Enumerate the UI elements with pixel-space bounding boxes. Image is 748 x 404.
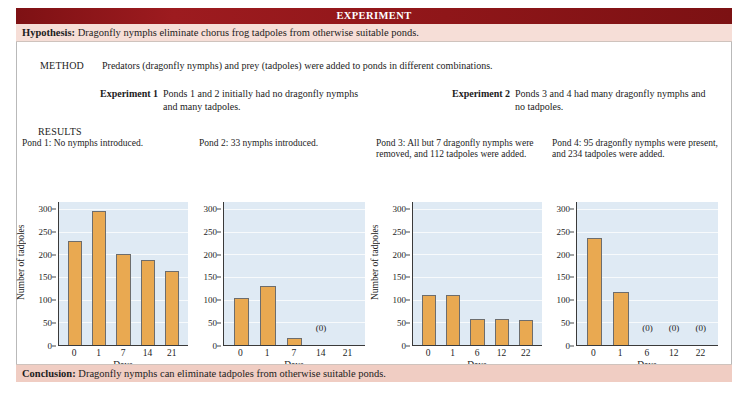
y-tick-label: 0 <box>213 342 218 350</box>
bar-cell <box>514 202 538 345</box>
x-tick-label: 22 <box>687 348 714 360</box>
y-tick-label: 250 <box>39 228 53 236</box>
bar-series: (0)(0)(0) <box>577 202 718 345</box>
y-tick-label: 0 <box>566 342 571 350</box>
hypothesis-text: Dragonfly nymphs eliminate chorus frog t… <box>75 27 419 38</box>
bar-cell <box>441 202 465 345</box>
bar-cell: (0) <box>634 202 661 345</box>
y-axis-title: Number of tadpoles <box>370 208 384 316</box>
bar-cell <box>87 202 111 345</box>
y-tick-label: 200 <box>393 251 407 259</box>
chart-area: 050100150200250300(0)(0)(0)0161222Days <box>548 172 724 358</box>
bar <box>234 298 249 345</box>
x-tick-label: 22 <box>514 348 538 360</box>
y-tick-label: 300 <box>39 205 53 213</box>
bar <box>613 292 628 345</box>
chart-title: Pond 4: 95 dragonfly nymphs were present… <box>548 138 724 172</box>
x-tick-label: 1 <box>254 348 281 360</box>
y-tick-label: 200 <box>557 251 571 259</box>
y-tick-label: 250 <box>557 228 571 236</box>
experiment-1-block: Experiment 1Ponds 1 and 2 initially had … <box>100 88 400 113</box>
bar <box>446 295 460 345</box>
x-tick-label: 0 <box>416 348 440 360</box>
results-label: RESULTS <box>38 126 82 137</box>
chart-panel-pond-3: Pond 3: All but 7 dragonfly nymphs were … <box>372 138 548 360</box>
y-tick-label: 150 <box>393 273 407 281</box>
y-tick-label: 300 <box>204 205 218 213</box>
chart-panel-pond-2: Pond 2: 33 nymphs introduced.05010015020… <box>195 138 371 360</box>
bar-cell <box>111 202 135 345</box>
zero-value-label: (0) <box>634 323 661 333</box>
y-tick-label: 100 <box>557 296 571 304</box>
bar-series <box>59 202 188 345</box>
y-tick-label: 50 <box>397 319 406 327</box>
bar-cell: (0) <box>661 202 688 345</box>
y-tick-label: 100 <box>204 296 218 304</box>
bar-cell <box>608 202 635 345</box>
hypothesis-band: Hypothesis: Dragonfly nymphs eliminate c… <box>16 24 732 42</box>
y-tick-label: 50 <box>43 319 52 327</box>
y-tick-label: 300 <box>393 205 407 213</box>
zero-value-label: (0) <box>687 323 714 333</box>
experiment-1-text: Ponds 1 and 2 initially had no dragonfly… <box>163 88 363 113</box>
x-tick-label: 12 <box>660 348 687 360</box>
chart-title: Pond 2: 33 nymphs introduced. <box>195 138 371 172</box>
bar <box>470 319 484 345</box>
bar <box>587 238 602 345</box>
x-tick-label: 1 <box>440 348 464 360</box>
experiment-banner: EXPERIMENT <box>16 8 732 24</box>
bar-cell <box>334 202 361 345</box>
bar-cell <box>136 202 160 345</box>
bar-series <box>413 202 542 345</box>
x-tick-label: 21 <box>334 348 361 360</box>
x-axis-ticks: 0161222 <box>412 348 542 360</box>
bar-cell <box>490 202 514 345</box>
y-tick-label: 250 <box>393 228 407 236</box>
bar <box>165 271 179 345</box>
x-tick-label: 7 <box>111 348 135 360</box>
bar <box>260 286 275 345</box>
x-tick-label: 7 <box>281 348 308 360</box>
method-row: METHODPredators (dragonfly nymphs) and p… <box>40 60 730 71</box>
x-tick-label: 21 <box>160 348 184 360</box>
bar <box>422 295 436 345</box>
y-axis-ticks: 050100150200250300 <box>548 202 574 346</box>
conclusion-text: Dragonfly nymphs can eliminate tadpoles … <box>76 368 386 379</box>
x-axis-ticks: 0171421 <box>223 348 365 360</box>
x-tick-label: 6 <box>465 348 489 360</box>
experiment-figure: EXPERIMENT Hypothesis: Dragonfly nymphs … <box>0 0 748 404</box>
experiment-2-block: Experiment 2Ponds 3 and 4 had many drago… <box>452 88 742 113</box>
x-tick-label: 14 <box>307 348 334 360</box>
bar <box>495 319 509 345</box>
experiment-1-label: Experiment 1 <box>100 88 158 99</box>
bar <box>287 338 302 345</box>
y-tick-label: 200 <box>39 251 53 259</box>
bar-cell <box>255 202 282 345</box>
y-tick-label: 0 <box>48 342 53 350</box>
chart-title: Pond 1: No nymphs introduced. <box>18 138 194 172</box>
y-tick-label: 250 <box>204 228 218 236</box>
chart-panel-pond-1: Pond 1: No nymphs introduced.Number of t… <box>18 138 194 360</box>
chart-area: 050100150200250300(0)0171421Days <box>195 172 371 358</box>
x-tick-label: 6 <box>634 348 661 360</box>
y-tick-label: 50 <box>561 319 570 327</box>
y-tick-label: 150 <box>39 273 53 281</box>
bar-cell <box>228 202 255 345</box>
bar-cell <box>417 202 441 345</box>
bar <box>68 241 82 345</box>
y-tick-label: 150 <box>204 273 218 281</box>
plot-area <box>412 202 542 346</box>
y-tick-label: 150 <box>557 273 571 281</box>
bar-cell: (0) <box>308 202 335 345</box>
plot-area: (0)(0)(0) <box>576 202 718 346</box>
x-tick-label: 0 <box>227 348 254 360</box>
bar-cell <box>581 202 608 345</box>
method-label: METHOD <box>40 60 102 71</box>
bar-series: (0) <box>224 202 365 345</box>
y-axis-ticks: 050100150200250300 <box>30 202 56 346</box>
bar <box>116 254 130 345</box>
chart-panel-pond-4: Pond 4: 95 dragonfly nymphs were present… <box>548 138 724 360</box>
conclusion-label: Conclusion: <box>22 368 76 379</box>
y-axis-title: Number of tadpoles <box>16 208 30 316</box>
chart-area: Number of tadpoles0501001502002503000171… <box>18 172 194 358</box>
